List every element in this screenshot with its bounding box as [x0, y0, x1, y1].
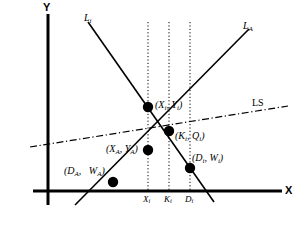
tick-sub: i	[192, 197, 194, 204]
line-LA	[75, 29, 249, 205]
paren-close: )	[179, 99, 182, 110]
dot-Xi-Yi	[143, 102, 153, 112]
line-label-LA: LA	[243, 21, 253, 33]
line-LS	[30, 106, 288, 147]
x-tick-label-Ki: Ki	[164, 195, 172, 205]
point-label-XA-YA: (XA, YA)	[106, 144, 138, 156]
var-2: W	[210, 152, 218, 163]
paren-close: )	[220, 152, 223, 163]
var-1: K	[178, 130, 185, 141]
x-axis-label: X	[285, 185, 292, 196]
var-1: D	[67, 165, 74, 176]
line-Li	[88, 22, 214, 202]
paren-close: )	[135, 143, 138, 154]
line-label-Li-sub: i	[90, 17, 92, 25]
x-tick-label-Xi: Xi	[143, 195, 150, 205]
line-label-LS: LS	[252, 98, 264, 108]
separator: ,	[79, 165, 89, 176]
tick-sub: i	[170, 197, 172, 204]
paren-close: )	[101, 165, 104, 176]
point-label-Ki-Qi: (Ki, Qi)	[175, 131, 205, 143]
paren-close: )	[201, 130, 204, 141]
x-tick-label-Di: Di	[185, 195, 193, 205]
line-label-Li: Li	[84, 13, 92, 25]
point-label-Di-Wi: (Di, Wi)	[192, 153, 223, 165]
diagram-canvas: Y X Li LA LS (Xi, Yi) (Ki, Qi) (XA, YA) …	[0, 0, 301, 229]
y-axis-label: Y	[43, 2, 50, 13]
diagram-svg	[0, 0, 301, 229]
line-label-LA-sub: A	[249, 25, 253, 33]
dot-Ki-Qi	[164, 126, 174, 136]
var-1: D	[195, 152, 202, 163]
var-2: W	[89, 165, 97, 176]
point-label-Xi-Yi: (Xi, Yi)	[155, 100, 182, 112]
point-label-DA-WA: (DA, WA)	[64, 166, 105, 178]
dot-XA-YA	[143, 145, 153, 155]
dot-DA-WA	[108, 177, 118, 187]
tick-sub: i	[149, 197, 151, 204]
